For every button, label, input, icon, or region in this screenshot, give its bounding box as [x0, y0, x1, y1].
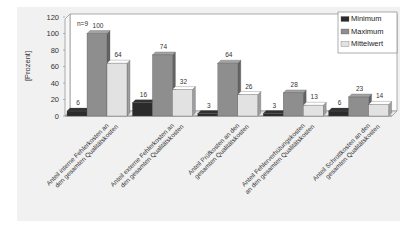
bar-top: [369, 101, 392, 104]
bar-mittelwert: [238, 95, 258, 116]
bar-top: [152, 52, 175, 55]
bar-minimum: [263, 114, 283, 116]
bar-top: [87, 31, 110, 34]
legend-swatch-mittelwert: [341, 42, 349, 47]
bar-chart: 020406080100120[Prozent]n=9610064Anteil …: [0, 0, 409, 229]
y-axis-label: [Prozent]: [23, 51, 32, 81]
bar-value-label: 100: [93, 22, 104, 29]
bar-value-label: 23: [356, 85, 364, 92]
bar-value-label: 28: [291, 81, 299, 88]
bar-value-label: 3: [272, 102, 276, 109]
bar-value-label: 6: [338, 99, 342, 106]
bar-top: [263, 111, 286, 114]
category-label: Anteil externe Fehlerkosten anden gesamt…: [109, 117, 186, 194]
bar-value-label: 14: [376, 92, 384, 99]
bar-value-label: 64: [114, 51, 122, 58]
bar-maximum: [152, 55, 172, 116]
bar-maximum: [218, 63, 238, 116]
bar-top: [132, 100, 155, 103]
bar-mittelwert: [369, 104, 389, 116]
y-tick-label: 80: [51, 46, 59, 55]
bar-minimum: [67, 111, 87, 116]
bar-mittelwert: [303, 105, 323, 116]
bar-top: [283, 90, 306, 93]
bar-top: [218, 60, 241, 63]
legend-label-maximum: Maximum: [351, 27, 384, 36]
legend-swatch-minimum: [341, 17, 349, 22]
bar-value-label: 16: [140, 91, 148, 98]
y-tick-label: 100: [46, 29, 59, 38]
bar-maximum: [283, 93, 303, 116]
legend-label-minimum: Minimum: [351, 14, 381, 23]
bar-minimum: [132, 103, 152, 116]
sample-size-annotation: n=9: [77, 20, 88, 27]
bar-top: [349, 94, 372, 97]
legend-label-mittelwert: Mittelwert: [351, 39, 384, 48]
bar-value-label: 3: [207, 102, 211, 109]
bar-side: [127, 60, 130, 116]
bar-value-label: 26: [245, 83, 253, 90]
bar-side: [192, 87, 195, 116]
bar-maximum: [349, 97, 369, 116]
y-tick-label: 40: [51, 79, 59, 88]
bar-value-label: 74: [160, 43, 168, 50]
category-label: Anteil Fehlerverhütungskostenan den gesa…: [238, 117, 317, 196]
y-tick-label: 120: [46, 13, 59, 22]
bar-top: [172, 87, 195, 90]
bar-side: [258, 92, 261, 116]
legend-swatch-maximum: [341, 29, 349, 34]
bar-minimum: [329, 111, 349, 116]
bar-mittelwert: [107, 63, 127, 116]
category-label: Anteil Schrottkosten an dengesamten Qual…: [311, 117, 382, 188]
bar-top: [198, 111, 221, 114]
bar-top: [329, 108, 352, 111]
bar-value-label: 6: [76, 99, 80, 106]
bar-top: [67, 108, 90, 111]
category-label: Anteil interne Fehlerkosten anden gesamt…: [45, 117, 121, 193]
bar-top: [107, 60, 130, 63]
y-tick-label: 60: [51, 62, 59, 71]
y-tick-label: 0: [55, 112, 59, 121]
bar-maximum: [87, 34, 107, 117]
bar-minimum: [198, 114, 218, 116]
y-tick-label: 20: [51, 95, 59, 104]
bar-top: [238, 92, 261, 95]
bar-mittelwert: [172, 90, 192, 116]
plot-left-wall: [65, 14, 70, 116]
bar-value-label: 32: [180, 78, 188, 85]
bar-value-label: 13: [311, 93, 319, 100]
bar-top: [303, 102, 326, 105]
bar-value-label: 64: [225, 51, 233, 58]
category-label: Anteil Prüfkosten an dengesamten Qualitä…: [186, 117, 251, 182]
